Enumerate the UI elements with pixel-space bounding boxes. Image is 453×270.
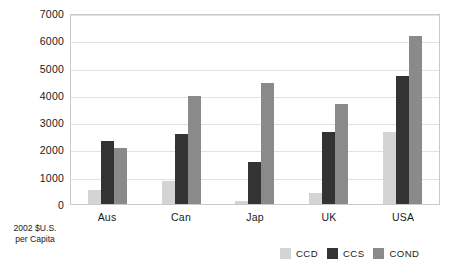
bar-uk-ccd bbox=[309, 193, 322, 204]
y-tick-label: 0 bbox=[0, 200, 64, 211]
y-tick-label: 5000 bbox=[0, 64, 64, 75]
legend-label-cond: COND bbox=[389, 248, 419, 259]
bar-can-ccs bbox=[175, 134, 188, 204]
y-tick-label: 1000 bbox=[0, 173, 64, 184]
bar-uk-ccs bbox=[322, 132, 335, 204]
bar-jap-ccs bbox=[248, 162, 261, 204]
bar-usa-ccs bbox=[396, 76, 409, 204]
bar-group-can bbox=[162, 15, 201, 204]
y-tick-label: 7000 bbox=[0, 9, 64, 20]
y-tick-label: 3000 bbox=[0, 118, 64, 129]
legend-swatch-ccd bbox=[280, 248, 291, 259]
legend-swatch-ccs bbox=[327, 248, 338, 259]
chart-legend: CCDCCSCOND bbox=[280, 246, 419, 260]
y-tick-label: 6000 bbox=[0, 36, 64, 47]
bar-uk-cond bbox=[335, 104, 348, 204]
bar-group-uk bbox=[309, 15, 348, 204]
bar-aus-ccd bbox=[88, 190, 101, 204]
bar-can-cond bbox=[188, 96, 201, 204]
x-label-aus: Aus bbox=[70, 209, 144, 225]
y-axis-title-line: per Capita bbox=[2, 234, 68, 245]
legend-swatch-cond bbox=[373, 248, 384, 259]
legend-item-ccd[interactable]: CCD bbox=[280, 248, 318, 259]
y-tick-label: 4000 bbox=[0, 91, 64, 102]
bar-usa-ccd bbox=[383, 132, 396, 204]
bar-group-aus bbox=[88, 15, 127, 204]
x-label-can: Can bbox=[144, 209, 218, 225]
bar-aus-cond bbox=[114, 148, 127, 204]
bar-group-usa bbox=[383, 15, 422, 204]
legend-item-ccs[interactable]: CCS bbox=[327, 248, 364, 259]
bar-jap-ccd bbox=[235, 201, 248, 204]
bar-aus-ccs bbox=[101, 141, 114, 204]
x-label-uk: UK bbox=[292, 209, 366, 225]
y-tick-label: 2000 bbox=[0, 145, 64, 156]
y-axis-title: 2002 $U.S.per Capita bbox=[2, 223, 68, 244]
x-label-jap: Jap bbox=[218, 209, 292, 225]
legend-label-ccd: CCD bbox=[296, 248, 318, 259]
bar-groups bbox=[71, 15, 439, 204]
bar-chart: 01000200030004000500060007000 2002 $U.S.… bbox=[0, 0, 453, 270]
bar-jap-cond bbox=[261, 83, 274, 204]
legend-label-ccs: CCS bbox=[343, 248, 364, 259]
bar-group-jap bbox=[235, 15, 274, 204]
plot-area bbox=[70, 14, 440, 205]
y-axis-tick-labels: 01000200030004000500060007000 bbox=[0, 14, 64, 205]
legend-item-cond[interactable]: COND bbox=[373, 248, 419, 259]
y-axis-title-line: 2002 $U.S. bbox=[2, 223, 68, 234]
x-axis-category-labels: AusCanJapUKUSA bbox=[70, 209, 440, 225]
bar-usa-cond bbox=[409, 36, 422, 204]
bar-can-ccd bbox=[162, 181, 175, 204]
x-label-usa: USA bbox=[366, 209, 440, 225]
